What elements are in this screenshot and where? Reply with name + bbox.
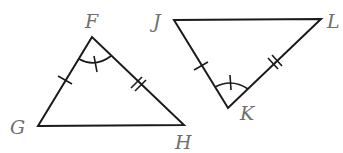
triangle-fgh <box>38 37 184 126</box>
vertex-label-j: J <box>149 10 162 32</box>
triangle-fgh-outline <box>38 37 184 126</box>
angle-k-tick <box>230 75 231 90</box>
vertex-label-h: H <box>174 131 192 153</box>
triangle-jkl-outline <box>174 19 321 108</box>
vertex-label-g: G <box>10 116 25 138</box>
vertex-label-k: K <box>239 102 256 124</box>
vertex-label-f: F <box>84 10 99 32</box>
congruent-triangles-diagram: F G H J K L <box>0 0 343 153</box>
triangle-jkl <box>174 19 321 108</box>
vertex-label-l: L <box>326 10 340 32</box>
angle-f-tick <box>94 56 97 72</box>
